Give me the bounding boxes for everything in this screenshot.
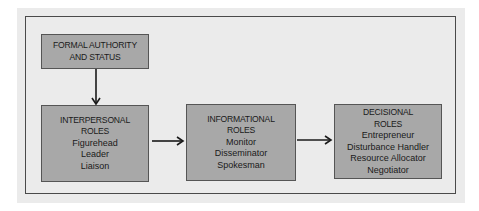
connector-arrows bbox=[0, 0, 479, 211]
